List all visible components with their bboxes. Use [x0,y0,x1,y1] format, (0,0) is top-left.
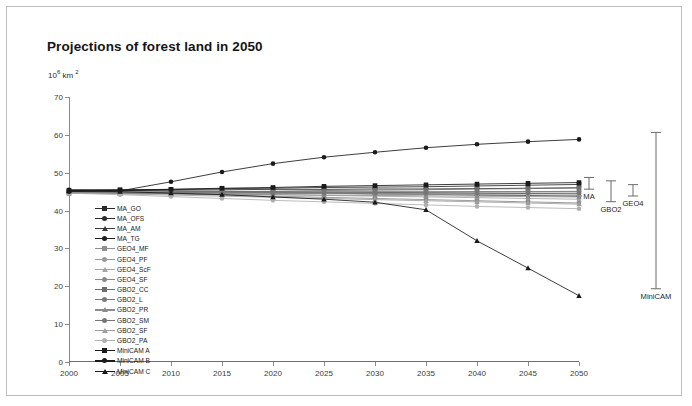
range-bracket-label: GEO4 [622,199,643,208]
x-tick-mark [579,362,580,366]
range-bracket-label: MiniCAM [641,292,672,301]
legend-marker-circle-icon [95,356,115,366]
legend-marker-square-icon [95,285,115,295]
x-tick-mark [477,362,478,366]
legend-label: GEO4_ScF [115,266,151,273]
y-axis-unit-label: 106 km 2 [48,69,79,80]
data-point [577,206,582,211]
x-tick-mark [69,362,70,366]
x-tick-label: 2000 [60,369,78,378]
data-point [322,191,327,196]
legend-marker-triangle-icon [95,366,115,376]
data-point [475,204,480,209]
data-point [220,186,225,191]
legend-item[interactable]: GBO2_CC [95,285,181,295]
legend-item[interactable]: GBO2_PA [95,335,181,345]
data-point [220,170,225,175]
data-point [475,191,480,196]
legend-label: GBO2_PA [115,337,147,344]
x-tick-mark [324,362,325,366]
legend-marker-circle-icon [95,274,115,284]
x-tick-mark [375,362,376,366]
legend-marker-circle-icon [95,213,115,223]
y-tick-label: 60 [54,130,63,139]
legend-item[interactable]: MiniCAM B [95,356,181,366]
data-point [424,183,429,188]
range-bracket-label: GBO2 [600,205,621,214]
legend-label: GBO2_PR [115,306,148,313]
data-point [526,181,531,186]
data-point [577,137,582,142]
legend-marker-circle-icon [95,254,115,264]
x-tick-label: 2045 [519,369,537,378]
y-tick-label: 20 [54,282,63,291]
legend-marker-circle-icon [95,295,115,305]
x-tick-label: 2040 [468,369,486,378]
data-point [525,265,530,270]
legend-marker-circle-icon [95,336,115,346]
chart-legend: MA_GOMA_OFSMA_AMMA_TGGEO4_MFGEO4_PFGEO4_… [95,203,181,376]
y-tick-label: 30 [54,244,63,253]
legend-label: GEO4_MF [115,245,149,252]
x-tick-mark [273,362,274,366]
y-tick-label: 40 [54,206,63,215]
data-point [424,203,429,208]
x-tick-mark [426,362,427,366]
y-tick-label: 50 [54,168,63,177]
x-tick-mark [528,362,529,366]
x-tick-label: 2035 [417,369,435,378]
legend-item[interactable]: GEO4_MF [95,244,181,254]
legend-label: GBO2_SM [115,317,149,324]
legend-marker-triangle-icon [95,305,115,315]
legend-label: MA_OFS [115,215,144,222]
legend-label: GEO4_PF [115,256,147,263]
legend-label: MiniCAM B [115,357,150,364]
range-bracket-label: MA [583,192,594,201]
data-point [322,155,327,160]
data-point [271,185,276,190]
y-tick-label: 10 [54,320,63,329]
legend-item[interactable]: MA_GO [95,203,181,213]
x-tick-label: 2020 [264,369,282,378]
legend-label: MiniCAM A [115,347,150,354]
x-tick-label: 2025 [315,369,333,378]
legend-label: GBO2_CC [115,286,149,293]
data-point [424,145,429,150]
x-tick-label: 2015 [213,369,231,378]
legend-item[interactable]: MA_AM [95,223,181,233]
legend-label: MA_GO [115,205,141,212]
x-tick-label: 2030 [366,369,384,378]
legend-label: GEO4_SF [115,276,147,283]
legend-item[interactable]: MA_OFS [95,213,181,223]
data-point [526,205,531,210]
legend-item[interactable]: MiniCAM A [95,346,181,356]
legend-item[interactable]: GEO4_ScF [95,264,181,274]
data-point [169,180,174,185]
x-tick-label: 2050 [570,369,588,378]
legend-item[interactable]: GEO4_PF [95,254,181,264]
data-point [577,191,582,196]
y-tick-label: 70 [54,93,63,102]
data-point [526,191,531,196]
legend-label: GBO2_L [115,296,143,303]
legend-label: GBO2_SF [115,327,147,334]
data-point [373,183,378,188]
legend-item[interactable]: MA_TG [95,234,181,244]
data-point [424,191,429,196]
legend-item[interactable]: GBO2_SM [95,315,181,325]
data-point [474,238,479,243]
data-point [373,150,378,155]
legend-marker-triangle-icon [95,223,115,233]
data-point [322,184,327,189]
legend-item[interactable]: GBO2_L [95,295,181,305]
legend-marker-square-icon [95,346,115,356]
legend-item[interactable]: GBO2_PR [95,305,181,315]
legend-item[interactable]: MiniCAM C [95,366,181,376]
legend-marker-triangle-icon [95,325,115,335]
y-tick-label: 0 [59,358,63,367]
data-point [271,161,276,166]
data-point [475,142,480,147]
legend-item[interactable]: GEO4_SF [95,274,181,284]
legend-marker-triangle-icon [95,264,115,274]
legend-item[interactable]: GBO2_SF [95,325,181,335]
